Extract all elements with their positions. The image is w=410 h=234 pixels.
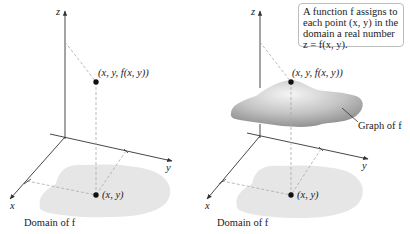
point-2d [288,192,293,197]
callout-box: A function f assigns to each point (x, y… [298,3,404,47]
graph-surface [231,80,363,127]
x-axis-label-right: x [205,201,210,212]
callout-line-3: domain a real number [303,28,399,39]
x-axis-label-left: x [10,201,15,212]
point-3d-label-right: (x, y, f(x, y)) [292,68,343,79]
point-3d [288,79,293,84]
y-axis [50,134,172,161]
y-axis-label-left: y [166,163,171,174]
point-2d-label-right: (x, y) [297,190,319,201]
left-panel [10,11,172,217]
domain-caption-right: Domain of f [217,218,268,229]
point-2d-label-left: (x, y) [102,190,124,201]
callout-line-2: each point (x, y) in the [303,17,399,28]
graph-caption: Graph of f [358,121,402,132]
callout-line-4: z = f(x, y). [303,39,399,50]
point-2d [93,192,98,197]
z-axis-label-left: z [56,7,60,18]
domain-caption-left: Domain of f [24,218,75,229]
y-axis [247,133,368,159]
point-3d [93,79,98,84]
y-axis-label-right: y [362,161,367,172]
point-3d-label-left: (x, y, f(x, y)) [98,68,149,79]
callout-line-1: A function f assigns to [303,6,399,17]
z-axis-label-right: z [251,7,255,18]
